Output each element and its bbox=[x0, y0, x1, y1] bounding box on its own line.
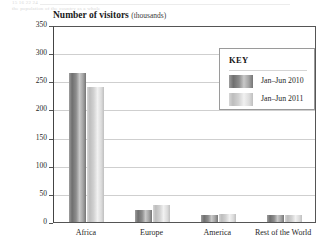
page-bleed-line-top: 15 16 22 24 bbox=[12, 0, 38, 5]
y-tick-150: 150 bbox=[0, 139, 53, 140]
y-tick-250: 250 bbox=[0, 82, 53, 83]
bar-group bbox=[135, 27, 170, 222]
chart-title-unit: (thousands) bbox=[131, 11, 166, 20]
y-tick-100: 100 bbox=[0, 167, 53, 168]
y-tick-label: 200 bbox=[36, 104, 47, 113]
y-tick-300: 300 bbox=[0, 54, 53, 55]
y-tick-label: 100 bbox=[36, 161, 47, 170]
y-tick-350: 350 bbox=[0, 26, 53, 27]
chart-legend: KEY Jan–Jun 2010 Jan–Jun 2011 bbox=[219, 48, 315, 110]
y-tick-label: 150 bbox=[36, 133, 47, 142]
y-tick-200: 200 bbox=[0, 110, 53, 111]
y-tick-label: 300 bbox=[36, 48, 47, 57]
y-tick-0: 0 bbox=[0, 223, 53, 224]
y-tick-label: 350 bbox=[36, 20, 47, 29]
x-axis-label: Europe bbox=[119, 228, 185, 237]
y-tick-label: 0 bbox=[43, 217, 47, 226]
bar bbox=[87, 87, 104, 222]
bar bbox=[153, 205, 170, 222]
bar bbox=[285, 215, 302, 222]
x-axis-label: Rest of the World bbox=[250, 228, 316, 237]
bar bbox=[69, 73, 86, 222]
y-tick-label: 50 bbox=[40, 189, 48, 198]
legend-swatch-2011 bbox=[229, 93, 253, 106]
legend-divider bbox=[229, 70, 307, 71]
bar bbox=[135, 210, 152, 222]
page-bleed-rule bbox=[40, 4, 290, 5]
legend-label-2011: Jan–Jun 2011 bbox=[261, 94, 303, 103]
bar bbox=[267, 215, 284, 222]
x-axis-labels: AfricaEuropeAmericaRest of the World bbox=[53, 228, 316, 244]
bar bbox=[201, 215, 218, 222]
chart-title: Number of visitors (thousands) bbox=[53, 10, 166, 20]
legend-title: KEY bbox=[229, 55, 248, 65]
chart-title-text: Number of visitors bbox=[53, 10, 129, 20]
y-tick-50: 50 bbox=[0, 195, 53, 196]
y-axis: 350300250200150100500 bbox=[0, 26, 53, 223]
y-tick-mark bbox=[49, 223, 53, 224]
bar bbox=[219, 214, 236, 222]
legend-label-2010: Jan–Jun 2010 bbox=[261, 76, 304, 85]
page-bleed-artifact: 15 16 22 24 the population of the countr… bbox=[0, 0, 336, 11]
legend-swatch-2010 bbox=[229, 75, 253, 88]
bar-group bbox=[69, 27, 104, 222]
y-tick-label: 250 bbox=[36, 76, 47, 85]
x-axis-label: America bbox=[185, 228, 251, 237]
x-axis-label: Africa bbox=[53, 228, 119, 237]
